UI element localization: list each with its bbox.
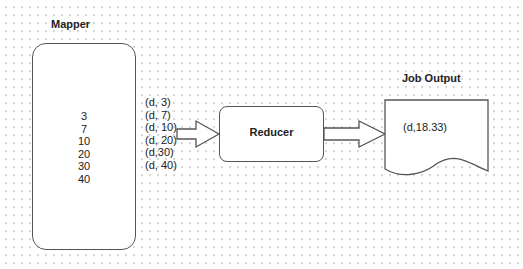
block-arrow-icon [177, 121, 219, 147]
output-value: (d,18.33) [403, 121, 447, 133]
reducer-label: Reducer [219, 126, 324, 138]
block-arrow-icon [324, 121, 385, 147]
output-title: Job Output [402, 72, 461, 84]
document-shape [385, 100, 488, 175]
